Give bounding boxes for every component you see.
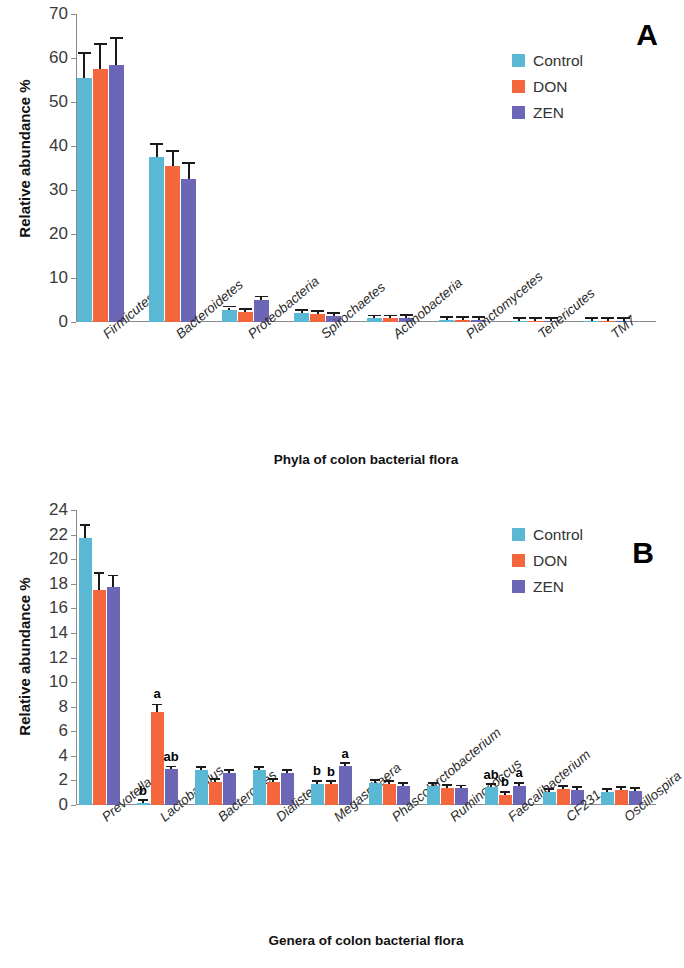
error-bar-cap — [572, 786, 583, 788]
bar-control[interactable] — [427, 786, 440, 805]
y-tick — [71, 731, 76, 732]
bar-zen[interactable] — [109, 65, 124, 322]
legend-swatch-control — [512, 528, 525, 541]
bar-don[interactable] — [325, 784, 338, 805]
y-tick-label: 6 — [59, 721, 68, 741]
bar-control[interactable] — [149, 157, 164, 322]
bar-control[interactable] — [369, 783, 382, 805]
y-tick-label: 50 — [49, 92, 68, 112]
error-bar-cap — [456, 316, 469, 318]
bar-don[interactable] — [499, 795, 512, 805]
bar-don[interactable] — [600, 321, 615, 322]
error-bar — [244, 310, 246, 312]
error-bar-cap — [254, 766, 265, 768]
bar-don[interactable] — [383, 784, 396, 806]
legend-item-control[interactable]: Control — [512, 526, 583, 543]
error-bar-cap — [440, 316, 453, 318]
panel-b-x-axis-title: Genera of colon bacterial flora — [76, 933, 656, 948]
error-bar-cap — [630, 787, 641, 789]
bar-don[interactable] — [238, 312, 253, 322]
bar-control[interactable] — [584, 321, 599, 322]
error-bar — [432, 784, 434, 786]
bar-control[interactable] — [294, 313, 309, 322]
y-tick — [71, 756, 76, 757]
bar-group — [149, 14, 196, 322]
bar-control[interactable] — [222, 310, 237, 322]
significance-label: a — [153, 686, 160, 701]
error-bar-cap — [224, 769, 235, 771]
error-bar — [534, 319, 536, 321]
legend-item-don[interactable]: DON — [512, 78, 583, 95]
bar-control[interactable] — [439, 320, 454, 322]
bar-don[interactable] — [441, 788, 454, 805]
bar-control[interactable] — [195, 770, 208, 805]
bar-don[interactable] — [455, 320, 470, 322]
bar-group — [369, 510, 410, 805]
error-bar-cap — [108, 575, 119, 577]
y-tick — [71, 633, 76, 634]
bar-control[interactable] — [485, 787, 498, 805]
bar-don[interactable] — [615, 790, 628, 805]
error-bar-cap — [295, 309, 308, 311]
error-bar-cap — [514, 782, 525, 784]
error-bar-cap — [223, 306, 236, 308]
error-bar-cap — [182, 162, 195, 164]
bar-don[interactable] — [151, 712, 164, 805]
y-tick-label: 60 — [49, 48, 68, 68]
y-tick — [71, 146, 76, 147]
bar-control[interactable] — [137, 803, 150, 805]
bar-control[interactable] — [311, 784, 324, 806]
error-bar-cap — [442, 784, 453, 786]
bar-don[interactable] — [267, 782, 280, 805]
legend-item-control[interactable]: Control — [512, 52, 583, 69]
y-tick — [71, 682, 76, 683]
bar-don[interactable] — [310, 314, 325, 322]
legend-item-don[interactable]: DON — [512, 552, 583, 569]
bar-don[interactable] — [165, 166, 180, 322]
legend-label: DON — [533, 552, 567, 570]
error-bar — [317, 312, 319, 314]
error-bar-cap — [370, 779, 381, 781]
bar-control[interactable] — [79, 538, 92, 805]
error-bar-cap — [384, 780, 395, 782]
error-bar — [607, 319, 609, 321]
error-bar — [258, 768, 260, 770]
y-tick-label: 40 — [49, 136, 68, 156]
bar-don[interactable] — [209, 782, 222, 805]
bar-don[interactable] — [93, 69, 108, 322]
y-tick-label: 22 — [49, 525, 68, 545]
legend-item-zen[interactable]: ZEN — [512, 104, 583, 121]
bar-don[interactable] — [383, 318, 398, 322]
y-tick — [71, 278, 76, 279]
bar-don[interactable] — [557, 789, 570, 805]
error-bar-cap — [311, 310, 324, 312]
y-tick-label: 12 — [49, 648, 68, 668]
bar-control[interactable] — [512, 321, 527, 322]
bar-don[interactable] — [528, 321, 543, 322]
error-bar-cap — [110, 37, 123, 39]
bar-zen[interactable] — [107, 587, 120, 805]
error-bar-cap — [486, 783, 497, 785]
y-tick-label: 24 — [49, 500, 68, 520]
error-bar-cap — [585, 317, 598, 319]
error-bar — [156, 705, 158, 711]
error-bar — [402, 784, 404, 786]
error-bar — [446, 318, 448, 320]
y-tick — [71, 322, 76, 323]
error-bar — [462, 318, 464, 320]
error-bar-cap — [340, 762, 351, 764]
error-bar — [620, 788, 622, 790]
bar-control[interactable] — [253, 770, 266, 805]
y-tick-label: 20 — [49, 549, 68, 569]
bar-control[interactable] — [77, 78, 92, 322]
bar-group — [367, 14, 414, 322]
bar-control[interactable] — [601, 792, 614, 805]
error-bar-cap — [513, 317, 526, 319]
bar-control[interactable] — [367, 318, 382, 322]
bar-zen[interactable] — [181, 179, 196, 322]
y-tick-label: 0 — [59, 312, 68, 332]
bar-control[interactable] — [543, 792, 556, 805]
y-tick-label: 2 — [59, 770, 68, 790]
legend-item-zen[interactable]: ZEN — [512, 578, 583, 595]
bar-don[interactable] — [93, 590, 106, 805]
